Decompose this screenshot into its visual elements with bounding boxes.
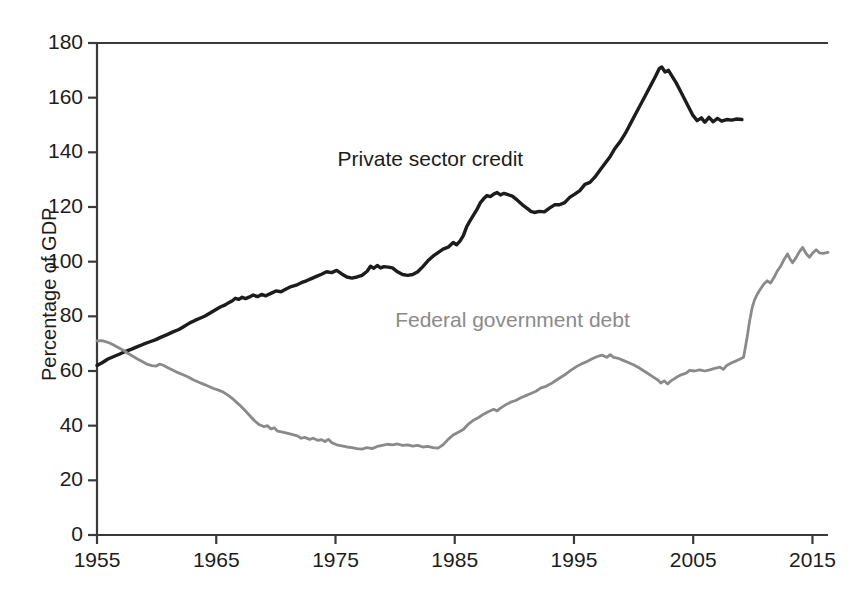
y-tick-label: 40 (23, 413, 83, 437)
x-tick-label: 1995 (534, 548, 614, 572)
private-sector-credit-label: Private sector credit (338, 147, 524, 171)
x-axis-tick-marks (97, 535, 812, 544)
y-tick-label: 100 (23, 249, 83, 273)
chart-figure: Percentage of GDP 0204060801001201401601… (0, 0, 863, 590)
y-tick-label: 60 (23, 358, 83, 382)
series-line-federal-government-debt (97, 247, 828, 449)
federal-government-debt-label: Federal government debt (395, 308, 630, 332)
y-tick-label: 140 (23, 139, 83, 163)
y-tick-label: 80 (23, 303, 83, 327)
y-tick-label: 0 (23, 522, 83, 546)
y-tick-label: 20 (23, 467, 83, 491)
x-tick-label: 2005 (653, 548, 733, 572)
y-tick-label: 120 (23, 194, 83, 218)
x-tick-label: 2015 (772, 548, 852, 572)
y-tick-label: 180 (23, 30, 83, 54)
y-tick-label: 160 (23, 85, 83, 109)
x-tick-label: 1965 (176, 548, 256, 572)
x-tick-label: 1955 (57, 548, 137, 572)
y-axis-tick-marks (88, 43, 97, 535)
y-axis-title: Percentage of GDP (38, 208, 61, 381)
x-tick-label: 1985 (415, 548, 495, 572)
x-tick-label: 1975 (295, 548, 375, 572)
chart-plot-area (0, 0, 863, 590)
